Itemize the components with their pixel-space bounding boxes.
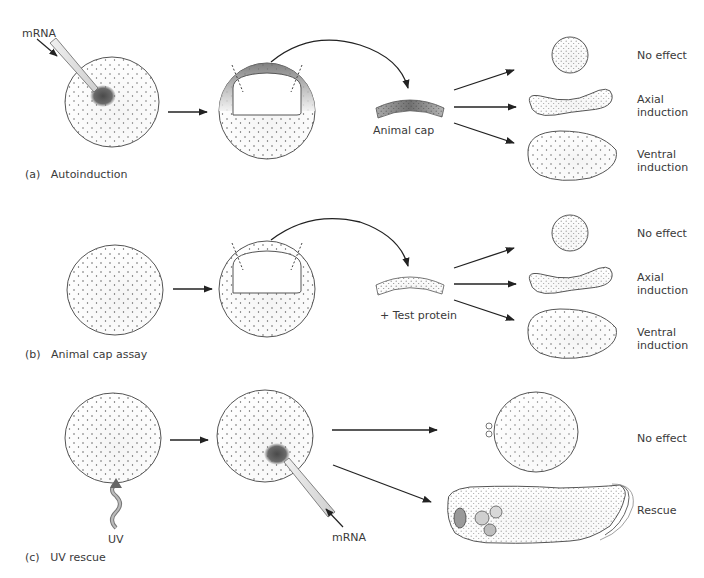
micropipette-needle [284, 458, 335, 517]
animal-cap-explant [376, 100, 444, 118]
uninjected-egg [67, 245, 163, 335]
panel-b [67, 215, 616, 358]
outcome-no-effect-embryo [486, 392, 578, 472]
panel-caption-b: (b) Animal cap assay [25, 348, 147, 361]
animal-cap-explant [376, 277, 444, 295]
outcome-ventral-shape [528, 131, 617, 180]
panel-a [37, 37, 616, 180]
outcome-axial-shape [529, 89, 612, 115]
outcome-no-effect-shape [552, 215, 588, 251]
outcome-rescued-tadpole [448, 484, 634, 543]
uv-label: UV [108, 533, 124, 546]
panel-caption-c: (c) UV rescue [25, 551, 106, 564]
uv-irradiated-egg [65, 393, 161, 483]
panel-c [65, 390, 633, 543]
outcome-label-no-effect: No effect [637, 227, 687, 240]
outcome-label-axial: Axialinduction [637, 93, 688, 119]
panel-caption-a: (a) Autoinduction [25, 168, 127, 181]
outcome-label-ventral: Ventralinduction [637, 326, 688, 352]
outcome-axial-shape [529, 267, 612, 293]
outcome-label-no-effect: No effect [637, 49, 687, 62]
outcome-label-rescue: Rescue [637, 504, 676, 517]
outcome-label-axial: Axialinduction [637, 271, 688, 297]
injection-label: mRNA [22, 27, 56, 40]
outcome-label-no-effect: No effect [637, 432, 687, 445]
blastula [219, 241, 315, 337]
outcome-label-ventral: Ventralinduction [637, 148, 688, 174]
injection-label: mRNA [332, 531, 366, 544]
outcome-ventral-shape [528, 309, 617, 358]
blastula [219, 58, 315, 159]
explant-label: Animal cap [373, 124, 434, 137]
injected-egg [217, 390, 313, 482]
outcome-no-effect-shape [552, 37, 588, 73]
uv-wavy-arrow-icon [110, 478, 122, 528]
explant-label: + Test protein [380, 309, 457, 322]
